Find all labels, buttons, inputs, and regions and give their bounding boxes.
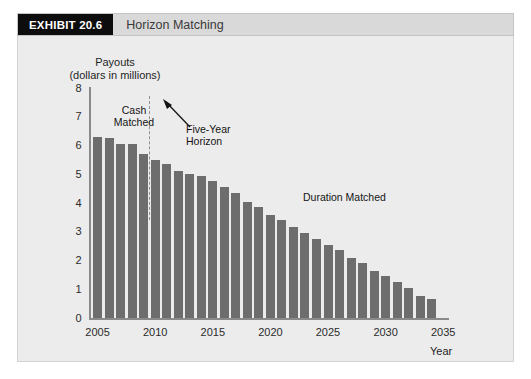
exhibit-header: EXHIBIT 20.6 Horizon Matching bbox=[17, 13, 514, 36]
exhibit-figure: EXHIBIT 20.6 Horizon Matching Payouts (d… bbox=[0, 0, 531, 379]
chart-panel bbox=[17, 36, 514, 362]
exhibit-title: Horizon Matching bbox=[113, 14, 223, 35]
exhibit-number: EXHIBIT 20.6 bbox=[18, 14, 113, 35]
